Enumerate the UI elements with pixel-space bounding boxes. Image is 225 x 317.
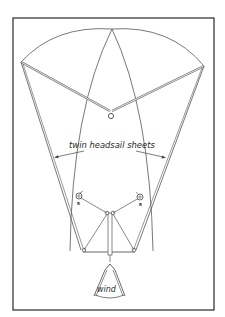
headsail-left-arc: [21, 29, 112, 62]
winch-line-right: [113, 198, 139, 213]
sheets-leader-right: [136, 151, 166, 158]
winch-left-icon: [76, 191, 83, 199]
rig-diagram: [0, 0, 225, 317]
diagram-canvas: twin headsail sheets wind R R: [0, 0, 225, 317]
winch-left-label: R: [77, 201, 80, 206]
mast-ring: [108, 113, 113, 118]
sheets-label: twin headsail sheets: [69, 140, 155, 150]
lead-right: [113, 214, 134, 250]
winch-line-left: [81, 198, 107, 213]
tiller: [108, 213, 112, 255]
winch-right-label: R: [139, 202, 142, 207]
wind-label: wind: [97, 285, 116, 294]
lead-left: [84, 214, 107, 250]
sheets-leader-left: [54, 151, 84, 158]
twin-poles: [21, 62, 204, 111]
headsail-right-arc: [112, 29, 204, 66]
figure-frame: [13, 18, 214, 310]
